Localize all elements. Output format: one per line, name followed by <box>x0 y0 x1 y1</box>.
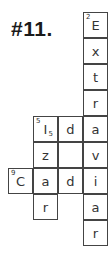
cell-letter: d <box>66 122 74 137</box>
crossword-cell[interactable]: i <box>83 168 108 194</box>
crossword-grid: 2Extr5I5dazv9Cadirar <box>0 0 112 266</box>
crossword-cell[interactable]: d <box>58 116 83 142</box>
cell-letter: i <box>94 174 98 189</box>
cell-letter: x <box>92 44 100 59</box>
cell-letter: C <box>16 174 25 189</box>
crossword-cell[interactable]: r <box>83 90 108 116</box>
cell-letter: t <box>93 70 98 85</box>
cell-letter: v <box>92 148 100 163</box>
crossword-cell[interactable]: d <box>58 168 83 194</box>
crossword-cell[interactable]: r <box>33 194 58 220</box>
crossword-cell[interactable]: a <box>33 168 58 194</box>
clue-number: 9 <box>11 170 15 177</box>
clue-number: 2 <box>86 14 90 21</box>
cell-letter: a <box>92 122 100 137</box>
crossword-cell[interactable]: a <box>83 116 108 142</box>
cell-letter: a <box>92 200 100 215</box>
crossword-cell[interactable]: 5I5 <box>33 116 58 142</box>
cell-subscript: 5 <box>49 131 53 138</box>
cell-letter: I <box>44 122 48 137</box>
cell-letter: z <box>42 148 49 163</box>
cell-letter: d <box>66 174 74 189</box>
crossword-cell[interactable]: v <box>83 142 108 168</box>
crossword-cell[interactable]: 9C <box>8 168 33 194</box>
crossword-cell[interactable]: x <box>83 38 108 64</box>
cell-letter: E <box>91 18 99 33</box>
crossword-cell[interactable]: r <box>83 220 108 246</box>
crossword-cell[interactable]: z <box>33 142 58 168</box>
clue-number: 5 <box>36 118 40 125</box>
cell-letter: r <box>93 96 98 111</box>
crossword-cell[interactable]: a <box>83 194 108 220</box>
cell-letter: a <box>42 174 50 189</box>
crossword-cell[interactable]: 2E <box>83 12 108 38</box>
cell-letter: r <box>43 200 48 215</box>
crossword-cell[interactable]: t <box>83 64 108 90</box>
crossword-cell[interactable] <box>58 142 83 168</box>
cell-letter: r <box>93 226 98 241</box>
